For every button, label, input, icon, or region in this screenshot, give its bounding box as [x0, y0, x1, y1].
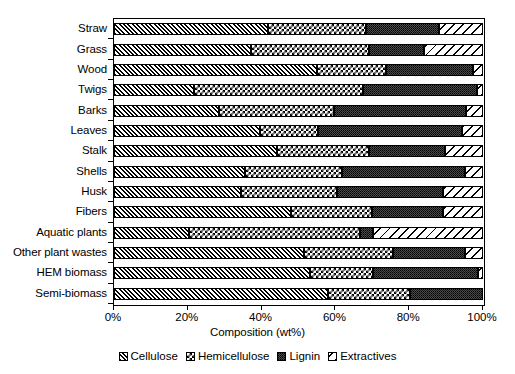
legend-label: Extractives — [340, 350, 396, 362]
legend-label: Hemicellulose — [198, 350, 270, 362]
x-axis-tick-label: 60% — [311, 311, 357, 324]
legend-label: Lignin — [289, 350, 320, 362]
legend-item: Extractives — [328, 350, 396, 362]
x-axis-tick-label: 100% — [459, 311, 505, 324]
chart-legend: CelluloseHemicelluloseLigninExtractives — [0, 350, 515, 362]
x-axis-tick — [261, 305, 262, 310]
x-axis-tick — [482, 305, 483, 310]
legend-item: Hemicellulose — [186, 350, 270, 362]
legend-swatch-hemicellulose — [186, 352, 195, 361]
legend-swatch-lignin — [277, 352, 286, 361]
legend-item: Lignin — [277, 350, 320, 362]
x-axis-title: Composition (wt%) — [0, 326, 515, 338]
x-axis-tick — [334, 305, 335, 310]
x-axis-tick — [408, 305, 409, 310]
x-axis-tick — [187, 305, 188, 310]
x-axis-tick-label: 40% — [238, 311, 284, 324]
legend-swatch-extractives — [328, 352, 337, 361]
x-axis-tick-label: 20% — [164, 311, 210, 324]
legend-item: Cellulose — [119, 350, 178, 362]
x-axis-tick-label: 80% — [385, 311, 431, 324]
legend-swatch-cellulose — [119, 352, 128, 361]
stacked-bar-chart: StrawGrassWoodTwigsBarksLeavesStalkShell… — [0, 0, 515, 374]
legend-label: Cellulose — [131, 350, 178, 362]
x-axis-tick-label: 0% — [90, 311, 136, 324]
x-axis-ticks: 0%20%40%60%80%100% — [0, 0, 515, 374]
x-axis-tick — [113, 305, 114, 310]
